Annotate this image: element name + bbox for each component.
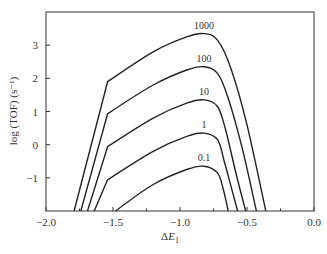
x-tick-label: 0.0 xyxy=(307,216,321,228)
curve-0_1 xyxy=(116,166,229,211)
y-tick-label: −1 xyxy=(26,172,38,184)
x-axis-title-main: Δ xyxy=(161,230,168,242)
x-tick-label: −0.5 xyxy=(237,216,257,228)
curve-label-10: 10 xyxy=(199,86,209,97)
curve-label-1000: 1000 xyxy=(194,20,214,31)
x-axis-title-sub: 1 xyxy=(175,236,179,245)
x-axis-title: ΔE1 xyxy=(161,230,179,245)
curve-10 xyxy=(88,100,246,211)
curve-label-0_1: 0.1 xyxy=(198,152,211,163)
y-tick-label: 3 xyxy=(33,39,39,51)
x-axis-ticks: −2.0−1.5−1.0−0.50.0 xyxy=(36,207,321,228)
plot-frame xyxy=(46,12,314,211)
x-tick-label: −1.0 xyxy=(170,216,190,228)
y-tick-label: 0 xyxy=(33,139,39,151)
y-axis-title: log (TOF) (s⁻¹) xyxy=(7,76,20,145)
y-tick-label: 2 xyxy=(33,72,39,84)
y-tick-label: 1 xyxy=(33,106,39,118)
curve-100 xyxy=(81,67,257,211)
curve-label-100: 100 xyxy=(197,53,212,64)
curves xyxy=(74,33,266,211)
chart: 10001001010.1 −2.0−1.5−1.0−0.50.0 −10123… xyxy=(0,0,327,254)
curve-label-1: 1 xyxy=(202,119,207,130)
curve-labels: 10001001010.1 xyxy=(194,20,214,164)
x-tick-label: −2.0 xyxy=(36,216,56,228)
curve-1000 xyxy=(74,33,266,211)
x-tick-label: −1.5 xyxy=(103,216,123,228)
